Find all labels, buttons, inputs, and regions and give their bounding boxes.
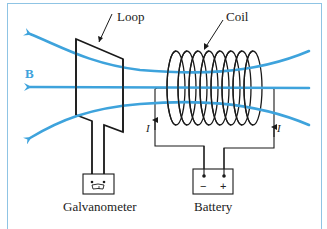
current-label-left: I bbox=[145, 122, 151, 134]
loop-label: Loop bbox=[117, 9, 144, 24]
galvanometer-label: Galvanometer bbox=[63, 199, 137, 214]
field-line-bottom bbox=[30, 102, 309, 138]
battery-label: Battery bbox=[194, 199, 233, 214]
induction-diagram: Galvanometer I I − + Battery bbox=[0, 0, 327, 229]
current-label-right: I bbox=[276, 122, 282, 134]
coil-label: Coil bbox=[226, 9, 249, 24]
loop-pointer bbox=[98, 14, 112, 42]
magnetic-field-lines bbox=[30, 34, 309, 138]
field-label-B: B bbox=[25, 66, 34, 81]
field-line-middle bbox=[30, 87, 309, 88]
battery-minus-label: − bbox=[200, 180, 206, 192]
field-line-top bbox=[30, 34, 309, 72]
battery-plus-label: + bbox=[220, 180, 226, 192]
coil-pointer bbox=[204, 20, 223, 50]
battery bbox=[193, 146, 233, 194]
galvanometer bbox=[83, 174, 114, 194]
